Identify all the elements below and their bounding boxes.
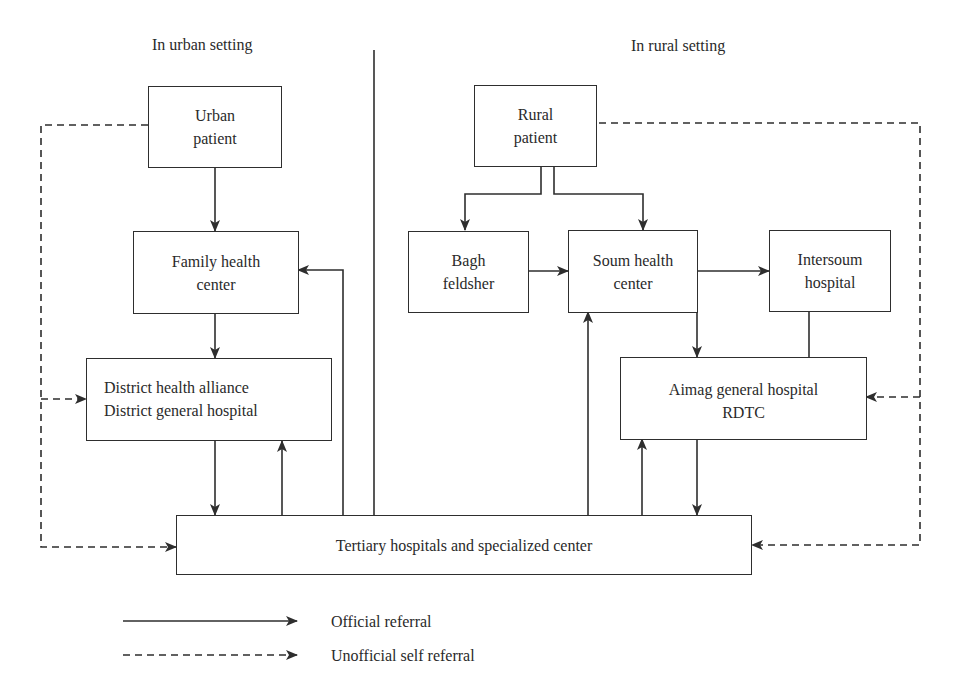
dashed-urban-to-tertiary (41, 125, 176, 547)
urban-section-title: In urban setting (152, 33, 252, 56)
dashed-rural-to-tertiary (587, 123, 920, 545)
rural-section-title: In rural setting (631, 34, 725, 57)
node-family-health-center: Family health center (133, 231, 299, 314)
node-label: RDTC (722, 401, 765, 424)
node-district: District health alliance District genera… (86, 358, 332, 441)
node-aimag-general-hospital: Aimag general hospital RDTC (620, 357, 867, 440)
node-label: Family health (172, 250, 260, 273)
node-urban-patient: Urban patient (148, 86, 282, 168)
arrow-rural-to-bagh (465, 167, 541, 230)
node-label: Soum health (593, 249, 673, 272)
legend-unofficial-label: Unofficial self referral (331, 644, 475, 667)
node-label: Aimag general hospital (669, 378, 818, 401)
node-label: patient (193, 127, 237, 150)
node-bagh-feldsher: Bagh feldsher (408, 231, 529, 313)
node-soum-health-center: Soum health center (568, 230, 698, 313)
node-label: center (613, 272, 652, 295)
node-intersoum-hospital: Intersoum hospital (769, 230, 891, 312)
node-tertiary-hospitals: Tertiary hospitals and specialized cente… (176, 515, 752, 575)
node-label: District general hospital (104, 399, 258, 422)
node-label: feldsher (443, 272, 495, 295)
node-label: patient (514, 126, 558, 149)
node-label: District health alliance (104, 376, 249, 399)
node-label: Bagh (452, 249, 486, 272)
arrow-rural-to-soum (554, 167, 643, 230)
node-rural-patient: Rural patient (474, 85, 597, 167)
legend-official-label: Official referral (331, 610, 432, 633)
node-label: hospital (805, 271, 856, 294)
node-label: Tertiary hospitals and specialized cente… (336, 534, 593, 557)
node-label: Urban (195, 104, 235, 127)
node-label: Intersoum (798, 248, 863, 271)
node-label: center (196, 273, 235, 296)
node-label: Rural (518, 103, 554, 126)
